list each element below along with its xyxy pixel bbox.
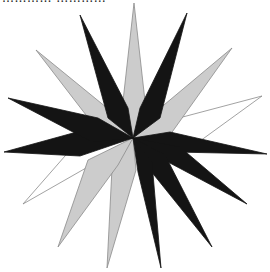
star-figure bbox=[0, 0, 270, 272]
